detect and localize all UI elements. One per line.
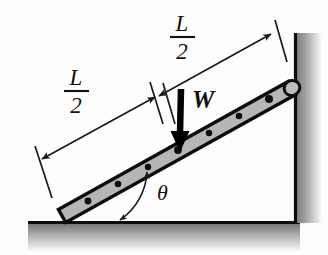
- plank-hole: [145, 164, 151, 170]
- plank-hole: [265, 95, 273, 103]
- ladder-diagram-svg: θ W L 2 L: [0, 0, 328, 255]
- plank-hole: [206, 130, 212, 136]
- weight-arrow-shaft: [180, 89, 181, 134]
- dimension-upper-numerator: L: [175, 11, 189, 36]
- physics-figure: θ W L 2 L: [0, 0, 328, 255]
- angle-theta-label: θ: [157, 180, 168, 205]
- wall-shadow: [296, 33, 322, 223]
- ground-surface: [28, 222, 300, 252]
- ground-shadow: [28, 222, 300, 252]
- plank-hole: [85, 198, 92, 205]
- figure-background: [0, 0, 328, 255]
- dimension-lower-numerator: L: [69, 65, 83, 90]
- wall-surface: [296, 33, 323, 223]
- dimension-upper-denominator: 2: [176, 39, 188, 64]
- dimension-lower-denominator: 2: [70, 93, 82, 118]
- plank-hole: [115, 181, 122, 188]
- weight-label: W: [192, 86, 216, 113]
- plank-hole: [236, 113, 243, 120]
